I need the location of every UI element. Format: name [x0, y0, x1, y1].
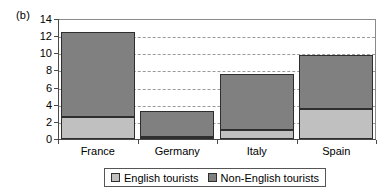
y-axis-tick-labels: 02468101214 [28, 0, 52, 193]
x-axis-tick-mark [297, 140, 298, 144]
y-axis-tick-label: 12 [32, 31, 52, 42]
bar-segment [140, 137, 214, 139]
legend-label: Non-English tourists [221, 172, 319, 184]
y-axis-tick-label: 0 [32, 134, 52, 145]
bar-series-container [58, 19, 376, 139]
chart-figure: (b) 02468101214 FranceGermanyItalySpain … [0, 0, 388, 193]
x-axis-category-label: Germany [138, 145, 218, 158]
chart-legend: English touristsNon-English tourists [104, 168, 326, 187]
bar-segment [61, 117, 135, 139]
bar-segment [299, 109, 373, 139]
legend-swatch-icon [111, 173, 120, 182]
bar-group [299, 19, 373, 139]
legend-entry: English tourists [111, 172, 199, 184]
y-axis-tick-label: 4 [32, 100, 52, 111]
y-axis-tick-label: 2 [32, 117, 52, 128]
legend-swatch-icon [208, 173, 217, 182]
bar-segment [61, 32, 135, 117]
bar-segment [140, 111, 214, 138]
x-axis-category-label: Spain [297, 145, 377, 158]
bar-group [61, 19, 135, 139]
x-axis-tick-mark [138, 140, 139, 144]
legend-entry: Non-English tourists [208, 172, 319, 184]
x-axis-category-label: France [58, 145, 138, 158]
legend-label: English tourists [124, 172, 199, 184]
y-axis-tick-label: 8 [32, 65, 52, 76]
bar-group [140, 19, 214, 139]
x-axis-tick-mark [58, 140, 59, 144]
bar-segment [220, 130, 294, 139]
x-axis-category-label: Italy [217, 145, 297, 158]
y-axis-tick-label: 14 [32, 14, 52, 25]
y-axis-tick-label: 6 [32, 83, 52, 94]
y-axis-tick-label: 10 [32, 48, 52, 59]
x-axis-tick-mark [376, 140, 377, 144]
x-axis-tick-mark [217, 140, 218, 144]
bar-group [220, 19, 294, 139]
bar-segment [220, 74, 294, 131]
bar-segment [299, 55, 373, 109]
